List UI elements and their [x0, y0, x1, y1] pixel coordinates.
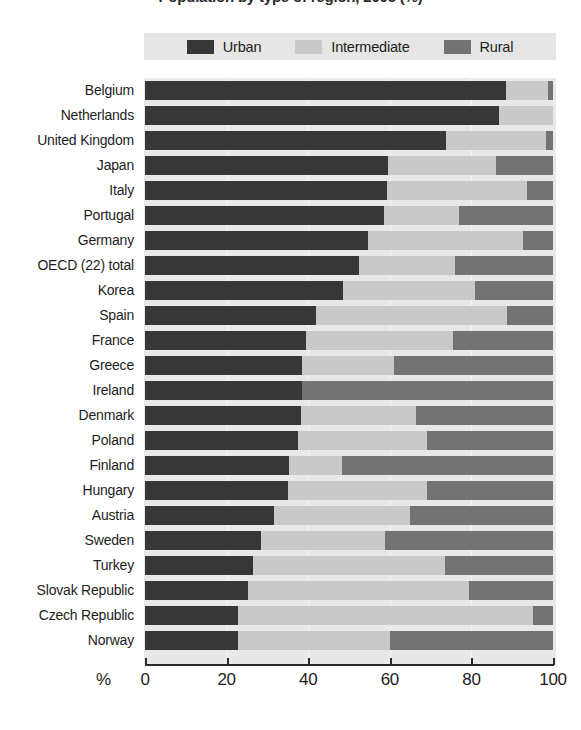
- x-tick-label: 40: [278, 670, 338, 690]
- bar-segment-urban: [145, 531, 261, 550]
- bar-segment-urban: [145, 181, 387, 200]
- category-label: Italy: [0, 178, 134, 203]
- bar-segment-urban: [145, 206, 384, 225]
- category-label: Turkey: [0, 553, 134, 578]
- stacked-bar: [145, 181, 553, 200]
- bar-segment-urban: [145, 581, 248, 600]
- category-label: Korea: [0, 278, 134, 303]
- bar-row: Portugal: [0, 203, 581, 228]
- x-axis-line: [145, 664, 554, 666]
- bar-segment-rural: [533, 606, 553, 625]
- bar-segment-urban: [145, 431, 298, 450]
- bar-row: United Kingdom: [0, 128, 581, 153]
- legend-label: Urban: [223, 39, 262, 55]
- stacked-bar: [145, 206, 553, 225]
- bar-row: Ireland: [0, 378, 581, 403]
- bar-segment-urban: [145, 81, 506, 100]
- bar-segment-urban: [145, 231, 368, 250]
- bar-row: France: [0, 328, 581, 353]
- category-label: Slovak Republic: [0, 578, 134, 603]
- stacked-bar: [145, 281, 553, 300]
- bar-segment-urban: [145, 406, 301, 425]
- bar-row: Finland: [0, 453, 581, 478]
- category-label: Belgium: [0, 78, 134, 103]
- x-tick-label: 0: [115, 670, 175, 690]
- bar-row: Hungary: [0, 478, 581, 503]
- category-label: Denmark: [0, 403, 134, 428]
- bar-segment-intermediate: [302, 356, 394, 375]
- bar-segment-rural: [527, 181, 553, 200]
- bar-row: Spain: [0, 303, 581, 328]
- chart-title: Population by type of region, 2005 (%): [0, 0, 581, 5]
- stacked-bar: [145, 581, 553, 600]
- bar-segment-rural: [410, 506, 553, 525]
- category-label: Finland: [0, 453, 134, 478]
- bar-row: Poland: [0, 428, 581, 453]
- category-label: Netherlands: [0, 103, 134, 128]
- bar-row: Germany: [0, 228, 581, 253]
- bar-segment-rural: [427, 431, 553, 450]
- category-label: Norway: [0, 628, 134, 653]
- bar-segment-rural: [469, 581, 553, 600]
- category-label: Portugal: [0, 203, 134, 228]
- x-tick-label: 20: [197, 670, 257, 690]
- axis-unit-label: %: [96, 670, 111, 690]
- bar-segment-urban: [145, 131, 446, 150]
- x-tick-label: 60: [360, 670, 420, 690]
- bar-row: Sweden: [0, 528, 581, 553]
- bar-segment-rural: [455, 256, 553, 275]
- stacked-bar: [145, 506, 553, 525]
- x-tick-label: 100: [523, 670, 581, 690]
- bar-segment-rural: [445, 556, 553, 575]
- category-label: United Kingdom: [0, 128, 134, 153]
- stacked-bar: [145, 306, 553, 325]
- bar-row: Denmark: [0, 403, 581, 428]
- bar-segment-rural: [507, 306, 553, 325]
- bar-segment-rural: [496, 156, 553, 175]
- bar-segment-urban: [145, 381, 302, 400]
- bar-segment-urban: [145, 256, 359, 275]
- bar-segment-urban: [145, 606, 238, 625]
- legend-label: Rural: [480, 39, 514, 55]
- stacked-bar: [145, 456, 553, 475]
- bar-row: Netherlands: [0, 103, 581, 128]
- bar-row: Korea: [0, 278, 581, 303]
- bar-segment-intermediate: [238, 606, 533, 625]
- bar-segment-rural: [394, 356, 553, 375]
- bar-segment-rural: [427, 481, 553, 500]
- stacked-bar: [145, 231, 553, 250]
- stacked-bar: [145, 331, 553, 350]
- bar-row: Slovak Republic: [0, 578, 581, 603]
- x-tick: [145, 658, 147, 665]
- bar-segment-intermediate: [248, 581, 468, 600]
- category-label: France: [0, 328, 134, 353]
- bar-row: Turkey: [0, 553, 581, 578]
- stacked-bar: [145, 156, 553, 175]
- category-label: Poland: [0, 428, 134, 453]
- category-label: Japan: [0, 153, 134, 178]
- bar-segment-intermediate: [261, 531, 385, 550]
- bar-segment-rural: [546, 131, 553, 150]
- bar-segment-intermediate: [238, 631, 390, 650]
- bar-segment-urban: [145, 456, 289, 475]
- bar-segment-intermediate: [289, 456, 342, 475]
- bar-segment-rural: [385, 531, 553, 550]
- category-label: Spain: [0, 303, 134, 328]
- stacked-bar: [145, 356, 553, 375]
- category-label: Austria: [0, 503, 134, 528]
- x-tick: [390, 658, 392, 665]
- bar-segment-urban: [145, 306, 316, 325]
- bar-segment-rural: [342, 456, 553, 475]
- bar-segment-rural: [390, 631, 553, 650]
- legend-label: Intermediate: [331, 39, 409, 55]
- bar-segment-intermediate: [301, 406, 416, 425]
- bar-segment-urban: [145, 556, 253, 575]
- x-tick: [227, 658, 229, 665]
- stacked-bar: [145, 431, 553, 450]
- bar-row: Austria: [0, 503, 581, 528]
- stacked-bar: [145, 556, 553, 575]
- bar-segment-intermediate: [388, 156, 496, 175]
- bar-segment-urban: [145, 356, 302, 375]
- bar-segment-intermediate: [506, 81, 548, 100]
- bar-segment-intermediate: [384, 206, 459, 225]
